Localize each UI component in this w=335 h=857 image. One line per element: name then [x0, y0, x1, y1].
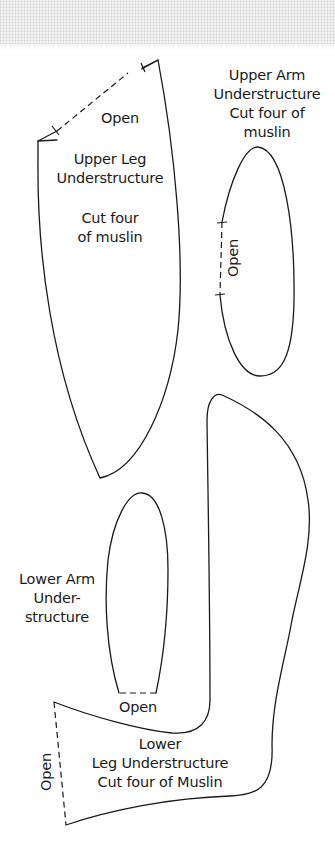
lower-arm-title-line1: Lower Arm: [12, 570, 102, 588]
lower-arm-title-line3: structure: [12, 608, 102, 626]
upper-leg-cut-line2: of muslin: [40, 228, 180, 246]
upper-leg-title-line1: Upper Leg: [40, 150, 180, 168]
lower-leg-title-line2: Leg Understructure: [80, 754, 240, 772]
upper-leg-title-line2: Understructure: [40, 169, 180, 187]
upper-arm-title-line2: Understructure: [200, 85, 334, 103]
upper-arm-notch-top: [217, 222, 227, 223]
upper-leg-open-label: Open: [90, 109, 150, 127]
upper-arm-open-label: Open: [224, 238, 242, 278]
upper-arm-open-edge: [220, 222, 222, 295]
lower-arm-open-label: Open: [110, 698, 166, 716]
lower-arm-title-line2: Under-: [12, 589, 102, 607]
lower-leg-title-line1: Lower: [80, 735, 240, 753]
lower-leg-cut-line: Cut four of Muslin: [80, 773, 240, 791]
lower-arm-outline: [106, 493, 168, 693]
upper-leg-cut-line1: Cut four: [40, 209, 180, 227]
lower-leg-open-label: Open: [37, 752, 55, 792]
lower-arm-piece: [106, 493, 168, 693]
upper-arm-cut-line2: muslin: [200, 123, 334, 141]
lower-leg-open-edge: [54, 702, 66, 825]
upper-arm-title-line1: Upper Arm: [200, 66, 334, 84]
upper-arm-cut-line1: Cut four of: [200, 104, 334, 122]
upper-arm-notch-bottom: [215, 294, 225, 295]
